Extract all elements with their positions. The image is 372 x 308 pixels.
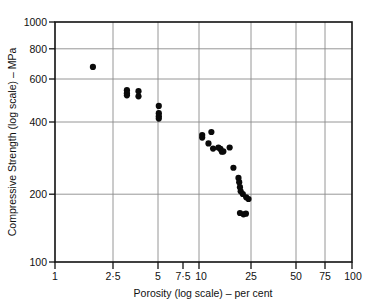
x-ticklabel-100: 100 bbox=[344, 270, 362, 282]
y-ticklabel-1000: 1000 bbox=[24, 16, 48, 28]
x-tickmarks bbox=[55, 262, 352, 269]
y-ticklabel-600: 600 bbox=[29, 73, 47, 85]
x-ticklabel-2point5: 2·5 bbox=[105, 270, 120, 282]
x-ticklabel-7point5: 7·5 bbox=[175, 270, 190, 282]
data-point bbox=[230, 165, 236, 171]
y-ticklabel-400: 400 bbox=[29, 116, 47, 128]
data-point bbox=[208, 129, 214, 135]
x-ticklabel-50: 50 bbox=[290, 270, 302, 282]
data-point bbox=[243, 211, 249, 217]
x-ticklabel-25: 25 bbox=[245, 270, 257, 282]
scatter-chart-figure: 1000 800 600 400 200 100 1 2·5 5 7·5 10 bbox=[0, 0, 372, 308]
y-ticklabel-800: 800 bbox=[29, 43, 47, 55]
x-ticklabel-1: 1 bbox=[52, 270, 58, 282]
data-point bbox=[210, 145, 216, 151]
data-point bbox=[199, 134, 205, 140]
data-point bbox=[90, 64, 96, 70]
x-ticklabel-10: 10 bbox=[195, 270, 207, 282]
x-ticklabel-75: 75 bbox=[319, 270, 331, 282]
data-point bbox=[156, 103, 162, 109]
y-tickmarks bbox=[49, 22, 55, 262]
x-ticklabels: 1 2·5 5 7·5 10 25 50 75 100 bbox=[52, 270, 362, 282]
data-point bbox=[227, 144, 233, 150]
chart-svg: 1000 800 600 400 200 100 1 2·5 5 7·5 10 bbox=[0, 0, 372, 308]
x-axis-title: Porosity (log scale) – per cent bbox=[134, 287, 273, 299]
data-point bbox=[205, 140, 211, 146]
data-point bbox=[124, 92, 130, 98]
data-point bbox=[135, 93, 141, 99]
y-ticklabels: 1000 800 600 400 200 100 bbox=[24, 16, 48, 268]
y-ticklabel-100: 100 bbox=[29, 256, 47, 268]
data-point bbox=[156, 115, 162, 121]
y-axis-title: Compressive Strength (log scale) – MPa bbox=[6, 48, 18, 237]
x-ticklabel-5: 5 bbox=[155, 270, 161, 282]
data-point bbox=[245, 196, 251, 202]
data-point bbox=[220, 148, 226, 154]
plot-area-background bbox=[55, 22, 352, 262]
y-ticklabel-200: 200 bbox=[29, 188, 47, 200]
